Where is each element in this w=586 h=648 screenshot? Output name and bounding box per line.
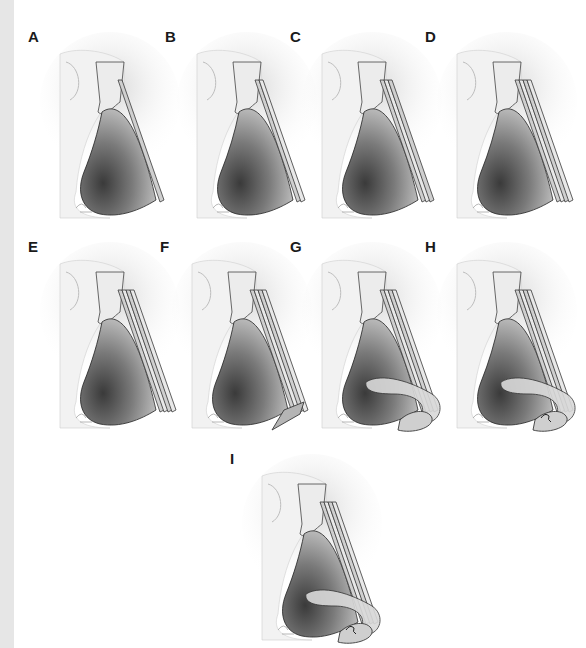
panel-label: A <box>28 28 39 45</box>
panel-label: F <box>160 238 169 255</box>
panel-label: H <box>425 238 436 255</box>
panel-label: I <box>230 450 234 467</box>
panel-label: G <box>290 238 302 255</box>
panel-g: G <box>290 238 430 428</box>
panel-i: I <box>230 450 370 640</box>
panel-c: C <box>290 28 430 218</box>
panel-label: B <box>165 28 176 45</box>
panel-a: A <box>28 28 168 218</box>
panel-label: D <box>425 28 436 45</box>
nose-illustration <box>40 32 180 222</box>
nose-illustration <box>302 32 442 222</box>
panel-b: B <box>165 28 305 218</box>
panel-d: D <box>425 28 565 218</box>
figure-grid: A B <box>0 0 586 648</box>
panel-h: H <box>425 238 565 428</box>
panel-e: E <box>28 238 168 428</box>
panel-label: C <box>290 28 301 45</box>
nose-illustration <box>437 32 577 222</box>
panel-f: F <box>160 238 300 428</box>
nose-illustration <box>40 242 180 432</box>
nose-illustration <box>242 454 382 644</box>
panel-label: E <box>28 238 38 255</box>
nose-illustration <box>437 242 577 432</box>
nose-illustration <box>302 242 442 432</box>
